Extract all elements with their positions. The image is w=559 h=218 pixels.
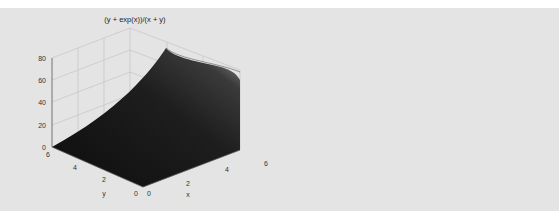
svg-text:2: 2 [186,180,190,187]
svg-text:80: 80 [38,55,46,62]
svg-text:6: 6 [46,151,50,158]
y-axis-label: y [102,190,106,198]
surface-plot: 80 60 40 20 0 6 4 2 0 y 0 2 4 6 x (y + e… [0,0,559,218]
svg-text:0: 0 [147,190,151,197]
svg-text:40: 40 [38,99,46,106]
svg-text:4: 4 [225,166,229,173]
chart-title: (y + exp(x))/(x + y) [104,15,166,24]
svg-text:4: 4 [73,164,77,171]
svg-text:60: 60 [38,77,46,84]
svg-text:0: 0 [42,144,46,151]
z-axis-ticks: 80 60 40 20 0 [38,55,46,151]
svg-text:6: 6 [264,160,268,167]
x-axis-label: x [186,191,190,198]
svg-text:20: 20 [38,122,46,129]
svg-text:0: 0 [134,190,138,197]
svg-text:2: 2 [102,176,106,183]
